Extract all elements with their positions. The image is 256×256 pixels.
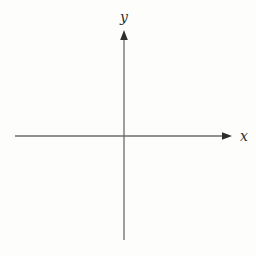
y-axis-arrowhead-icon: [120, 30, 128, 40]
x-axis-label: x: [240, 128, 248, 144]
coordinate-plane-diagram: x y: [0, 0, 256, 256]
y-axis-label: y: [119, 9, 129, 25]
x-axis-arrowhead-icon: [222, 132, 232, 140]
axes-figure: x y: [0, 0, 256, 256]
